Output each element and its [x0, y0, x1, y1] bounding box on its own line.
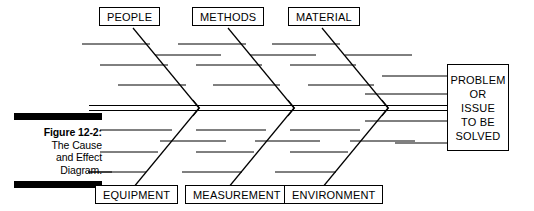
caption-text: Figure 12-2: The Cause and Effect Diagra… [14, 126, 102, 176]
bone-material [322, 28, 388, 108]
bone-material-causes [272, 44, 412, 85]
effect-line-1: PROBLEM [450, 73, 505, 87]
caption-line-3: and Effect [14, 151, 102, 164]
effect-line-4: TO BE [461, 115, 495, 129]
bone-measurement [228, 108, 294, 188]
category-label-measurement: MEASUREMENT [193, 189, 281, 201]
bone-environment-causes [275, 130, 415, 172]
category-box-people: PEOPLE [99, 7, 160, 26]
category-box-measurement: MEASUREMENT [185, 185, 289, 204]
effect-line-3: ISSUE [461, 101, 495, 115]
bone-effect-causes [365, 76, 447, 143]
effect-line-2: OR [470, 87, 487, 101]
bone-environment [322, 108, 388, 188]
caption-rule-top [14, 113, 102, 120]
caption-line-4: Diagram. [14, 164, 102, 177]
bone-equipment [133, 108, 199, 188]
bone-equipment-causes [88, 130, 226, 172]
effect-box: PROBLEM OR ISSUE TO BE SOLVED [447, 64, 509, 151]
caption-line-1: Figure 12-2: [14, 126, 102, 139]
spine [89, 106, 447, 111]
figure-container: Figure 12-2: The Cause and Effect Diagra… [0, 0, 534, 211]
effect-line-5: SOLVED [455, 129, 500, 143]
category-label-material: MATERIAL [296, 11, 352, 23]
category-box-equipment: EQUIPMENT [95, 185, 178, 204]
category-box-environment: ENVIRONMENT [284, 185, 383, 204]
bone-measurement-causes [182, 130, 320, 172]
bone-people [133, 28, 199, 108]
category-box-methods: METHODS [192, 7, 264, 26]
category-label-people: PEOPLE [107, 11, 152, 23]
category-label-methods: METHODS [200, 11, 256, 23]
category-label-equipment: EQUIPMENT [103, 189, 170, 201]
category-label-environment: ENVIRONMENT [292, 189, 375, 201]
caption-rule-bottom [14, 181, 102, 188]
spine-chevrons [193, 100, 389, 116]
figure-caption: Figure 12-2: The Cause and Effect Diagra… [14, 113, 102, 188]
category-box-material: MATERIAL [288, 7, 360, 26]
bone-methods [228, 28, 294, 108]
caption-line-2: The Cause [14, 139, 102, 152]
